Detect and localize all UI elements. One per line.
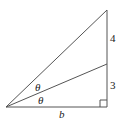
triangle-diagram: 4 3 b θ θ (0, 0, 122, 121)
label-upper-segment: 4 (110, 32, 116, 44)
label-angle-upper: θ (35, 81, 41, 93)
hypotenuse-line (6, 10, 107, 107)
right-angle-marker (100, 100, 107, 107)
diagram-canvas: 4 3 b θ θ (0, 0, 122, 121)
label-base: b (59, 108, 65, 120)
label-angle-lower: θ (38, 94, 44, 106)
label-lower-segment: 3 (110, 79, 116, 91)
bisector-line (6, 64, 107, 107)
